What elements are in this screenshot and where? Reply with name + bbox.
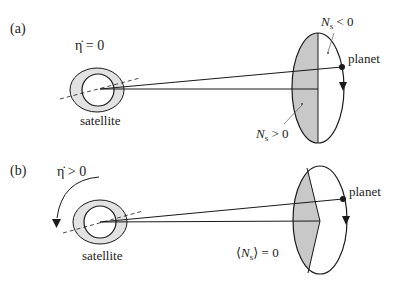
- panel-b: (b) η̇ > 0 satellite planet ⟨Ns⟩ = 0: [10, 163, 381, 276]
- shaded-region-positive: [290, 30, 318, 146]
- ns-negative-label: Ns < 0: [320, 14, 354, 31]
- planet-dot: [340, 196, 346, 202]
- panel-a-label: (a): [10, 21, 26, 37]
- satellite-b-label: satellite: [82, 248, 123, 263]
- tidal-torque-diagram: (a) η̇ = 0 satellite planet Ns < 0 Ns > …: [0, 0, 400, 282]
- eta-dot-zero-label: η̇ = 0: [75, 38, 104, 53]
- orbit-direction-arrow-icon: [342, 216, 350, 225]
- planet-b-label: planet: [349, 184, 381, 199]
- eta-dot-positive-label: η̇ > 0: [57, 164, 86, 179]
- satellite-a: [60, 68, 140, 112]
- orbit-direction-arrow-icon: [339, 82, 347, 91]
- satellite-a-label: satellite: [80, 113, 121, 128]
- ns-average-label: ⟨Ns⟩ = 0: [236, 245, 279, 262]
- pointer-dot: [327, 52, 329, 54]
- ns-positive-label: Ns > 0: [255, 126, 289, 143]
- planet-dot: [339, 64, 345, 70]
- panel-a: (a) η̇ = 0 satellite planet Ns < 0 Ns > …: [10, 14, 380, 146]
- rotation-arrow-icon: [52, 219, 61, 228]
- planet-a-label: planet: [348, 51, 380, 66]
- line-to-center: [100, 221, 320, 222]
- planet-orbit-a: [290, 30, 347, 146]
- panel-b-label: (b): [10, 163, 27, 179]
- satellite-body: [82, 74, 114, 106]
- pointer-dot: [301, 103, 303, 105]
